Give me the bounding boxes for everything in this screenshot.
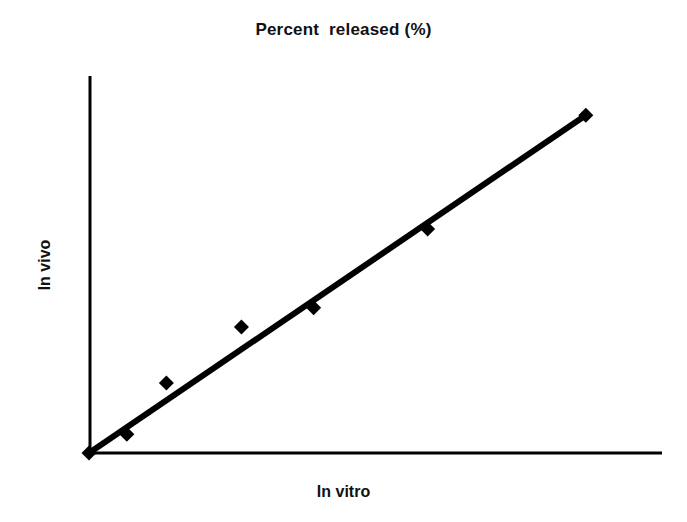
y-axis-label: In vivo (36, 240, 54, 291)
x-axis-label: In vitro (0, 483, 687, 501)
trend-line (89, 115, 586, 453)
data-point-marker (159, 375, 174, 390)
plot-area (0, 0, 687, 522)
data-point-marker (234, 320, 249, 335)
trend-line-group (89, 115, 586, 453)
chart-figure: Percent released (%) In vivo In vitro (0, 0, 687, 522)
